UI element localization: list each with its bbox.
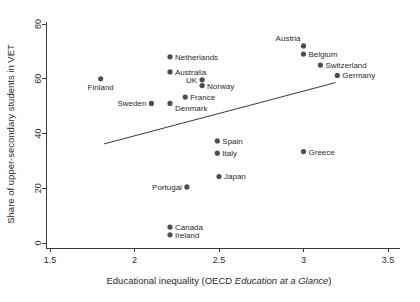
point-marker[interactable] [167, 69, 172, 74]
point-label: Germany [342, 71, 375, 80]
point-label: Switzerland [325, 61, 366, 70]
scatter-chart-figure: 1.522.533.5 020406080 FinlandSwedenAustr… [0, 0, 420, 302]
point-label: Finland [88, 83, 114, 92]
point-marker[interactable] [184, 184, 189, 189]
point-label: Netherlands [175, 53, 218, 62]
point-label: UK [186, 76, 198, 85]
point-marker[interactable] [167, 101, 172, 106]
point-marker[interactable] [301, 43, 306, 48]
data-point[interactable]: Austria [276, 34, 307, 49]
point-marker[interactable] [216, 174, 221, 179]
data-point[interactable]: Spain [215, 137, 243, 146]
data-point[interactable]: Germany [335, 71, 376, 80]
axes-group [46, 22, 400, 248]
point-label: Denmark [175, 104, 208, 113]
data-point[interactable]: Sweden [117, 99, 154, 108]
data-point[interactable]: France [183, 93, 216, 102]
point-label: Austria [276, 34, 301, 43]
point-marker[interactable] [98, 76, 103, 81]
point-marker[interactable] [301, 149, 306, 154]
data-point[interactable]: Netherlands [167, 53, 218, 62]
point-marker[interactable] [318, 62, 323, 67]
data-point[interactable]: Italy [215, 149, 237, 158]
y-tick-label: 60 [33, 74, 43, 84]
data-point[interactable]: Finland [88, 76, 114, 92]
point-label: Japan [224, 172, 246, 181]
y-axis-ticks: 020406080 [33, 19, 46, 246]
point-marker[interactable] [149, 101, 154, 106]
point-marker[interactable] [167, 232, 172, 237]
regression-fit-line [104, 83, 336, 144]
point-marker[interactable] [215, 151, 220, 156]
y-tick-label: 40 [33, 128, 43, 138]
point-label: Italy [222, 149, 237, 158]
point-label: Spain [222, 137, 242, 146]
data-point[interactable]: Greece [301, 148, 335, 157]
point-marker[interactable] [335, 73, 340, 78]
point-marker[interactable] [183, 94, 188, 99]
data-point[interactable]: Denmark [167, 101, 208, 114]
x-tick-label: 3.5 [382, 255, 395, 265]
point-label: Greece [309, 148, 336, 157]
point-label: Norway [207, 82, 234, 91]
point-marker[interactable] [200, 83, 205, 88]
point-label: Ireland [175, 231, 199, 240]
scatter-plot-canvas: 1.522.533.5 020406080 FinlandSwedenAustr… [0, 0, 420, 302]
point-marker[interactable] [200, 77, 205, 82]
data-point[interactable]: Ireland [167, 231, 199, 240]
data-point[interactable]: Portugal [152, 183, 189, 192]
x-axis-ticks: 1.522.533.5 [44, 248, 395, 265]
data-point[interactable]: Japan [216, 172, 245, 181]
y-tick-label: 80 [33, 19, 43, 29]
x-axis-title: Educational inequality (OECD Education a… [107, 275, 332, 286]
y-tick-label: 0 [33, 240, 43, 245]
point-label: France [190, 93, 215, 102]
point-label: Sweden [117, 99, 146, 108]
point-marker[interactable] [301, 52, 306, 57]
x-tick-label: 3 [301, 255, 306, 265]
point-label: Portugal [152, 183, 182, 192]
x-tick-label: 2.5 [213, 255, 226, 265]
point-marker[interactable] [167, 54, 172, 59]
x-tick-label: 1.5 [44, 255, 57, 265]
y-tick-label: 20 [33, 183, 43, 193]
fit-line-segment [104, 83, 336, 144]
x-tick-label: 2 [132, 255, 137, 265]
data-point[interactable]: Switzerland [318, 61, 367, 70]
y-axis-title: Share of upper-secondary students in VET [5, 44, 16, 224]
data-point[interactable]: Norway [200, 82, 235, 91]
data-point[interactable]: Belgium [301, 50, 338, 59]
point-marker[interactable] [215, 138, 220, 143]
point-label: Belgium [309, 50, 338, 59]
point-marker[interactable] [167, 225, 172, 230]
